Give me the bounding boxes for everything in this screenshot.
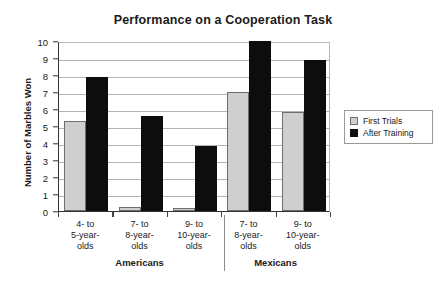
bar-first-trials: [282, 112, 304, 211]
y-axis-tick-label: 1: [43, 190, 48, 201]
y-axis-tick-mark: [53, 143, 58, 144]
x-axis-tick-mark: [167, 212, 168, 217]
legend-swatch-after-training: [350, 129, 358, 137]
x-axis-category-label: 7- to8-year-olds: [112, 219, 166, 253]
y-axis-tick-label: 10: [37, 37, 48, 48]
category-label-line: 8-year-: [221, 230, 275, 241]
x-axis-tick-mark: [276, 212, 277, 217]
y-axis-tick-label: 5: [43, 122, 48, 133]
y-axis-tick-mark: [53, 109, 58, 110]
category-label-line: 7- to: [221, 219, 275, 230]
y-axis-tick-label: 7: [43, 88, 48, 99]
category-label-line: olds: [276, 241, 330, 252]
category-label-line: 7- to: [112, 219, 166, 230]
y-axis-title: Number of Marbles Won: [22, 48, 33, 218]
bar-first-trials: [64, 121, 86, 211]
x-axis-tick-mark: [221, 212, 222, 217]
bar-chart-figure: Performance on a Cooperation Task Number…: [0, 0, 446, 282]
y-axis-tick-label: 4: [43, 139, 48, 150]
y-axis-tick-label: 9: [43, 54, 48, 65]
nationality-label: Americans: [58, 257, 221, 268]
y-axis-tick-label: 6: [43, 105, 48, 116]
x-axis-category-label: 9- to10-year-olds: [276, 219, 330, 253]
x-axis-category-label: 4- to5-year-olds: [58, 219, 112, 253]
y-axis-tick-mark: [53, 75, 58, 76]
bar-after-training: [304, 60, 326, 211]
y-axis-tick-label: 3: [43, 156, 48, 167]
bar-after-training: [141, 116, 163, 211]
category-label-line: olds: [221, 241, 275, 252]
legend-label-first-trials: First Trials: [363, 116, 402, 126]
y-axis-tick-mark: [53, 41, 58, 42]
x-axis-tick-mark: [58, 212, 59, 217]
category-label-line: 9- to: [276, 219, 330, 230]
y-axis-tick-mark: [53, 92, 58, 93]
bar-first-trials: [227, 92, 249, 211]
x-axis-tick-mark: [330, 212, 331, 217]
category-label-line: 10-year-: [276, 230, 330, 241]
y-axis-tick-mark: [53, 160, 58, 161]
legend-swatch-first-trials: [350, 117, 358, 125]
y-axis-tick-mark: [53, 126, 58, 127]
y-axis-tick-mark: [53, 58, 58, 59]
x-axis-tick-mark: [112, 212, 113, 217]
y-axis-tick-label: 8: [43, 71, 48, 82]
gridline: [59, 60, 329, 61]
category-label-line: olds: [112, 241, 166, 252]
category-label-line: 9- to: [167, 219, 221, 230]
bar-after-training: [195, 146, 217, 211]
legend-item-after-training: After Training: [350, 127, 428, 138]
bar-first-trials: [173, 208, 195, 211]
plot-area: [58, 42, 330, 212]
nationality-label: Mexicans: [221, 257, 330, 268]
y-axis-tick-label: 0: [43, 207, 48, 218]
y-axis-tick-mark: [53, 177, 58, 178]
bar-first-trials: [119, 207, 141, 211]
category-label-line: 8-year-: [112, 230, 166, 241]
legend-label-after-training: After Training: [363, 128, 414, 138]
x-axis-category-label: 7- to8-year-olds: [221, 219, 275, 253]
category-label-line: 4- to: [58, 219, 112, 230]
category-label-line: olds: [58, 241, 112, 252]
bar-after-training: [86, 77, 108, 211]
y-axis-tick-mark: [53, 194, 58, 195]
legend-item-first-trials: First Trials: [350, 116, 428, 127]
category-label-line: 5-year-: [58, 230, 112, 241]
chart-legend: First Trials After Training: [344, 110, 433, 144]
x-axis-category-label: 9- to10-year-olds: [167, 219, 221, 253]
category-label-line: 10-year-: [167, 230, 221, 241]
chart-title: Performance on a Cooperation Task: [0, 13, 446, 27]
bar-after-training: [249, 41, 271, 211]
category-label-line: olds: [167, 241, 221, 252]
y-axis-tick-label: 2: [43, 173, 48, 184]
